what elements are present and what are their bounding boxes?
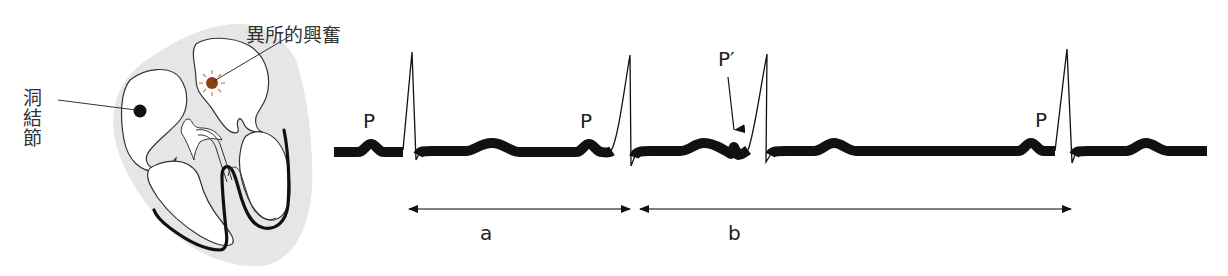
- ecg-segment-4: [770, 143, 1055, 155]
- qrs-complex-4: [1055, 49, 1075, 163]
- qrs-complex-1: [403, 52, 419, 160]
- p-prime-pointer-arrow: [728, 77, 734, 130]
- ecg-diagram-canvas: P P P′ P a b: [0, 0, 1228, 276]
- ecg-segment-1: [334, 144, 403, 152]
- p-wave-label-1: P: [363, 109, 375, 133]
- ecg-segment-5: [1074, 143, 1207, 155]
- ecg-segment-2: [418, 143, 612, 155]
- sa-node-dot: [134, 105, 147, 118]
- p-prime-wave-label: P′: [718, 47, 735, 71]
- ecg-segment-3: [634, 143, 748, 157]
- p-wave-label-2: P: [580, 109, 592, 133]
- interval-b-label: b: [728, 221, 741, 245]
- ectopic-excitation-label: 異所的興奮: [246, 20, 341, 47]
- qrs-complex-3: [748, 54, 771, 162]
- sa-node-label: 洞結節: [22, 88, 42, 148]
- ecg-trace: [334, 49, 1207, 166]
- interval-a-label: a: [480, 221, 492, 245]
- heart-diagram: [58, 24, 312, 266]
- p-wave-label-4: P: [1035, 108, 1047, 132]
- qrs-complex-2: [611, 55, 635, 166]
